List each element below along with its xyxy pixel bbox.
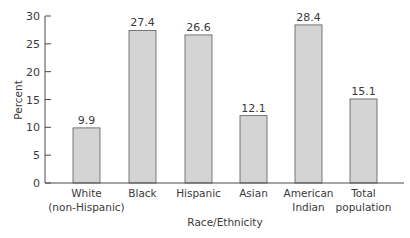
y-tick-label: 0 xyxy=(33,177,40,190)
bar-value-label: 28.4 xyxy=(296,11,321,24)
x-category-label: population xyxy=(336,201,392,213)
x-category-label: Asian xyxy=(239,187,268,199)
x-category-label: White xyxy=(71,187,102,199)
bar-value-label: 12.1 xyxy=(241,102,266,115)
bar-value-label: 15.1 xyxy=(351,85,376,98)
x-category-label: Hispanic xyxy=(176,187,221,199)
x-category-label: American xyxy=(284,187,334,199)
x-category-label: Total xyxy=(350,187,376,199)
x-axis: White(non-Hispanic)BlackHispanicAsianAme… xyxy=(45,183,404,213)
x-category-label: (non-Hispanic) xyxy=(48,201,124,213)
x-category-label: Indian xyxy=(292,201,324,213)
y-tick-label: 30 xyxy=(26,10,40,23)
y-axis: 051015202530 xyxy=(26,10,51,190)
bar-value-label: 9.9 xyxy=(78,114,96,127)
y-axis-title: Percent xyxy=(12,80,24,120)
bar xyxy=(73,128,100,183)
bar xyxy=(295,25,322,183)
x-axis-title: Race/Ethnicity xyxy=(187,216,262,228)
bar-value-label: 27.4 xyxy=(130,16,155,29)
bar xyxy=(185,35,212,183)
y-tick-label: 10 xyxy=(26,121,40,134)
y-tick-label: 15 xyxy=(26,94,40,107)
x-category-label: Black xyxy=(128,187,157,199)
bar-chart: 051015202530 9.927.426.612.128.415.1 Whi… xyxy=(0,0,410,238)
y-tick-label: 5 xyxy=(33,149,40,162)
bars: 9.927.426.612.128.415.1 xyxy=(73,11,377,183)
bar-value-label: 26.6 xyxy=(186,21,211,34)
y-tick-label: 25 xyxy=(26,38,40,51)
bar xyxy=(240,116,267,183)
bar xyxy=(129,30,156,183)
y-tick-label: 20 xyxy=(26,66,40,79)
bar xyxy=(350,99,377,183)
